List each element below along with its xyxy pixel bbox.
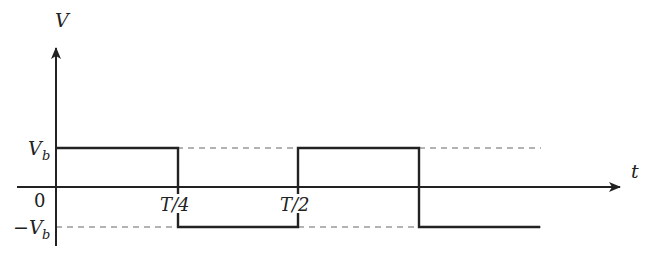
neg-vb-level-label: −V b	[13, 216, 50, 242]
tick-label-t-half: T/2	[280, 194, 310, 215]
square-wave-diagram: V t 0 V b −V b T/4 T/2	[0, 0, 652, 263]
x-axis-label: t	[631, 160, 639, 182]
y-axis-label: V	[55, 9, 71, 31]
origin-label: 0	[34, 190, 45, 211]
svg-text:−V: −V	[13, 216, 45, 238]
tick-label-t-quarter: T/4	[160, 194, 190, 215]
svg-text:b: b	[42, 227, 50, 242]
vb-level-label: V b	[28, 137, 50, 163]
svg-text:b: b	[42, 148, 50, 163]
